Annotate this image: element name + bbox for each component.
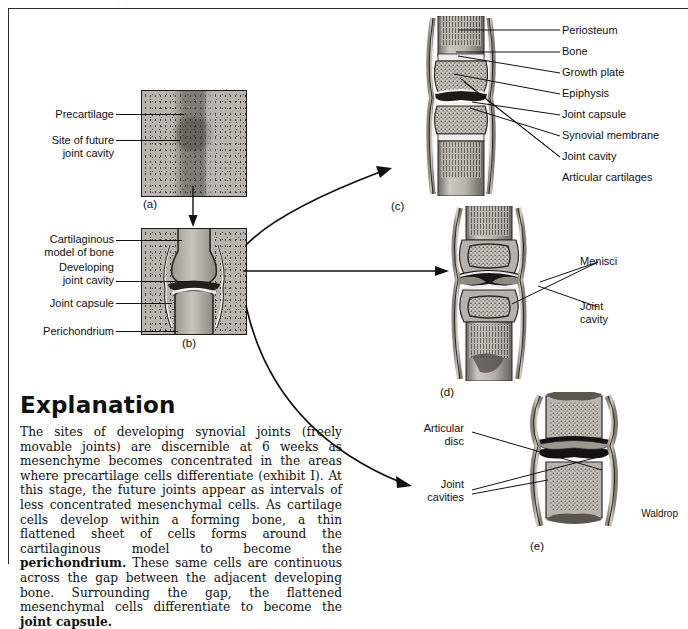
- label-joint-cavity-d: Joint cavity: [580, 300, 608, 326]
- micrograph-panel-a: [141, 90, 247, 197]
- label-perichondrium: Perichondrium: [8, 325, 114, 338]
- arrow-b-to-d: [243, 262, 455, 280]
- caption-a: (a): [143, 198, 157, 210]
- future-joint-cavity-region: [176, 118, 210, 150]
- label-articular-cartilages: Articular cartilages: [562, 171, 652, 184]
- leader-cartilaginous-model-of-bone: [116, 240, 182, 241]
- label-joint-cavities: Joint cavities: [392, 478, 464, 504]
- label-menisci: Menisci: [580, 255, 617, 268]
- caption-b: (b): [182, 337, 196, 349]
- label-developing-joint-cavity: Developing joint cavity: [8, 261, 114, 287]
- explanation-heading: Explanation: [20, 392, 342, 418]
- arrow-b-to-c: [240, 60, 450, 250]
- leader-precartilage: [116, 114, 184, 115]
- faint-header-text: · · · · · · · · ·: [60, 0, 660, 6]
- leader-joint-capsule: [116, 303, 172, 304]
- top-rule: [8, 8, 688, 9]
- label-bone: Bone: [562, 45, 588, 58]
- leader-developing-joint-cavity: [116, 281, 192, 282]
- label-articular-disc: Articular disc: [392, 422, 464, 448]
- caption-d: (d): [440, 386, 454, 398]
- highlight-band: [206, 91, 217, 196]
- label-periosteum: Periosteum: [562, 24, 618, 37]
- arrow-a-to-b: [180, 186, 210, 230]
- label-precartilage: Precartilage: [10, 108, 114, 121]
- label-joint-cavity-c: Joint cavity: [562, 150, 616, 163]
- label-joint-capsule-c: Joint capsule: [562, 108, 626, 121]
- leader-perichondrium: [116, 331, 178, 332]
- artist-credit: Waldrop: [641, 508, 678, 519]
- label-epiphysis: Epiphysis: [562, 87, 609, 100]
- explanation-body: The sites of developing synovial joints …: [20, 425, 342, 629]
- explanation-block: Explanation The sites of developing syno…: [20, 392, 342, 629]
- label-site-of-future-joint-cavity: Site of future joint cavity: [10, 134, 114, 160]
- label-synovial-membrane: Synovial membrane: [562, 129, 659, 142]
- label-joint-capsule: Joint capsule: [8, 297, 114, 310]
- label-growth-plate: Growth plate: [562, 66, 624, 79]
- caption-c: (c): [391, 200, 404, 212]
- leader-site-of-future-joint-cavity: [116, 140, 180, 141]
- label-cartilaginous-model-of-bone: Cartilaginous model of bone: [8, 233, 114, 259]
- leader-lines-e: [452, 418, 602, 508]
- caption-e: (e): [530, 540, 544, 552]
